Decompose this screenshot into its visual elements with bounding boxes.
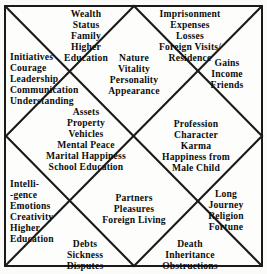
house-5-line-1: Intelli- — [10, 178, 76, 189]
house-10-significations: ProfessionCharacterKarmaHappiness fromMa… — [142, 118, 250, 173]
house-5-line-2: -gence — [10, 189, 76, 200]
house-2-line-2: Status — [43, 19, 129, 30]
house-4-significations: AssetsPropertyVehiclesMental PeaceMarita… — [32, 106, 140, 173]
house-9-significations: LongJourneyReligionFortune — [195, 188, 257, 232]
house-5-line-5: Higher — [10, 222, 76, 233]
house-6-significations: DebtsSicknessDisputes — [52, 238, 118, 271]
house-11-line-2: Income — [196, 68, 258, 79]
house-10-line-1: Profession — [142, 118, 250, 129]
house-3-line-1: Initiatives — [10, 51, 110, 62]
house-8-line-2: Inheritance — [150, 249, 230, 260]
house-6-line-1: Debts — [52, 238, 118, 249]
house-3-line-4: Communication — [10, 84, 110, 95]
house-4-line-3: Vehicles — [32, 128, 140, 139]
house-5-significations: Intelli--genceEmotionsCreativityHigherEd… — [10, 178, 76, 245]
house-9-line-2: Journey — [195, 199, 257, 210]
house-7-line-2: Pleasures — [85, 203, 183, 214]
house-7-significations: PartnersPleasuresForeign Living — [85, 192, 183, 225]
house-7-line-1: Partners — [85, 192, 183, 203]
house-8-line-3: Obstructions — [150, 260, 230, 271]
house-3-line-3: Leadership — [10, 73, 110, 84]
house-4-line-2: Property — [32, 117, 140, 128]
house-3-line-2: Courage — [10, 62, 110, 73]
house-11-line-3: Friends — [196, 79, 258, 90]
birth-chart-diagram: NatureVitalityPersonalityAppearance Weal… — [0, 0, 267, 274]
house-12-line-1: Imprisonment — [146, 8, 234, 19]
house-3-line-5: Understanding — [10, 95, 110, 106]
house-5-line-3: Emotions — [10, 200, 76, 211]
house-9-line-3: Religion — [195, 210, 257, 221]
house-8-line-1: Death — [150, 238, 230, 249]
house-6-line-2: Sickness — [52, 249, 118, 260]
house-12-line-3: Losses — [146, 30, 234, 41]
house-12-line-5: Residence — [146, 52, 234, 63]
house-4-line-1: Assets — [32, 106, 140, 117]
house-12-line-2: Expenses — [146, 19, 234, 30]
house-10-line-3: Karma — [142, 140, 250, 151]
house-10-line-2: Character — [142, 129, 250, 140]
house-7-line-3: Foreign Living — [85, 214, 183, 225]
house-5-line-4: Creativity — [10, 211, 76, 222]
house-2-line-3: Family — [43, 30, 129, 41]
house-12-significations: ImprisonmentExpensesLossesForeign Visits… — [146, 8, 234, 63]
house-12-line-4: Foreign Visits/ — [146, 41, 234, 52]
house-10-line-4: Happiness from — [142, 151, 250, 162]
house-4-line-6: School Education — [32, 161, 140, 172]
house-10-line-5: Male Child — [142, 162, 250, 173]
house-6-line-3: Disputes — [52, 260, 118, 271]
house-4-line-4: Mental Peace — [32, 139, 140, 150]
house-9-line-1: Long — [195, 188, 257, 199]
house-3-significations: InitiativesCourageLeadershipCommunicatio… — [10, 51, 110, 106]
house-8-significations: DeathInheritanceObstructions — [150, 238, 230, 271]
house-4-line-5: Marital Happiness — [32, 150, 140, 161]
house-9-line-4: Fortune — [195, 221, 257, 232]
house-2-line-1: Wealth — [43, 8, 129, 19]
